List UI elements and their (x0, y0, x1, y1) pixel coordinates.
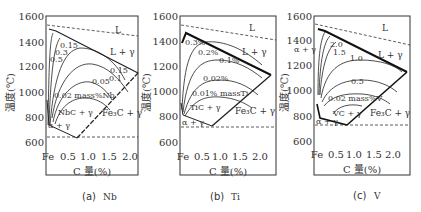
region-L-gamma: L + γ (378, 50, 403, 60)
ytick-1400: 1400 (19, 37, 44, 48)
ytick-1000: 1000 (287, 85, 312, 96)
region-L-gamma: L + γ (242, 47, 267, 57)
caption-c-element: V (373, 191, 381, 201)
ytick-1600: 1600 (287, 11, 312, 22)
ytick-1400: 1400 (153, 36, 178, 47)
iso-0.02: 0.02 mass%Nb (54, 91, 115, 100)
x-axis-label: C 量(%) (209, 166, 247, 177)
iso-0.05: 0.05 (92, 77, 110, 86)
region-alpha-gamma-top: α + γ (294, 45, 316, 54)
xtick-1.5: 1.5 (232, 151, 248, 162)
region-tic-gamma: TiC + γ (190, 103, 221, 112)
caption-c-prefix: (c) (353, 190, 366, 201)
iso-0.3: 0.3% (185, 38, 206, 47)
xtick-2.0: 2.0 (252, 151, 268, 162)
panel-ti: 1600 1400 1200 1000 800 600 温度(℃) Fe 0.5… (140, 11, 276, 177)
ytick-600: 600 (293, 136, 312, 147)
region-fe3c-gamma: Fe₃C + γ (235, 106, 275, 116)
iso-0.01: 0.01% massTi (192, 89, 249, 98)
region-L: L (249, 23, 255, 33)
iso-0.5: 0.5 (351, 77, 364, 86)
ytick-1600: 1600 (153, 11, 178, 22)
xtick-2.0: 2.0 (385, 149, 401, 160)
ytick-1600: 1600 (19, 11, 44, 22)
region-L: L (115, 25, 121, 35)
iso-0.1: 0.1% (219, 56, 240, 65)
y-axis-label: 温度(℃) (140, 73, 152, 112)
xtick-0.5: 0.5 (328, 149, 344, 160)
x-axis-label: C 量(%) (343, 164, 381, 175)
x-axis-label: C 量(%) (73, 166, 111, 177)
ytick-1200: 1200 (19, 61, 44, 72)
iso-0.2: 0.2% (198, 48, 219, 57)
iso-0.02: 0.02 mass%V (328, 94, 383, 103)
region-L-gamma: L + γ (110, 47, 135, 57)
panel-nb: 1600 1400 1200 1000 800 600 温度(℃) Fe 0.5… (4, 11, 142, 177)
caption-b-prefix: (b) (210, 191, 224, 202)
region-alpha-gamma: α + γ (316, 117, 338, 126)
xtick-1.0: 1.0 (80, 151, 96, 162)
ytick-600: 600 (25, 137, 44, 148)
ytick-1200: 1200 (153, 61, 178, 72)
region-alpha-gamma: α + γ (48, 121, 70, 130)
panel-v: 1600 1400 1200 1000 800 600 温度(℃) Fe 0.5… (278, 11, 410, 175)
iso-1.0: 1.0 (350, 54, 363, 63)
region-nbc-gamma: NbC + γ (58, 108, 93, 117)
xtick-0.5: 0.5 (60, 151, 76, 162)
y-axis-label: 温度(℃) (4, 73, 16, 112)
region-alpha-gamma: α + γ (182, 118, 204, 127)
ytick-600: 600 (159, 137, 178, 148)
ytick-800: 800 (159, 111, 178, 122)
ytick-800: 800 (293, 111, 312, 122)
xtick-1.0: 1.0 (212, 151, 228, 162)
xtick-fe: Fe (177, 151, 189, 162)
ytick-1000: 1000 (153, 86, 178, 97)
xtick-1.0: 1.0 (346, 149, 362, 160)
caption-b-element: Ti (231, 192, 240, 202)
ytick-1200: 1200 (287, 60, 312, 71)
ytick-1000: 1000 (19, 87, 44, 98)
iso-1.5: 1.5 (333, 48, 346, 57)
xtick-fe: Fe (311, 149, 323, 160)
xtick-fe: Fe (42, 151, 54, 162)
xtick-1.5: 1.5 (366, 149, 382, 160)
xtick-1.5: 1.5 (101, 151, 117, 162)
caption-a-element: Nb (103, 192, 117, 202)
region-fe3c-gamma: Fe₃C + γ (102, 108, 142, 118)
iso-0.5: 0.5 (50, 55, 63, 64)
iso-0.02: 0.02% (203, 74, 229, 83)
iso-0.1: 0.1 (109, 74, 122, 83)
phase-diagrams-figure: 1600 1400 1200 1000 800 600 温度(℃) Fe 0.5… (0, 0, 421, 212)
y-axis-label: 温度(℃) (278, 73, 290, 112)
ytick-800: 800 (25, 112, 44, 123)
xtick-0.5: 0.5 (194, 151, 210, 162)
region-fe3c-gamma: Fe₃C + γ (370, 108, 410, 118)
xtick-2.0: 2.0 (122, 151, 138, 162)
caption-a-prefix: (a) (82, 191, 96, 202)
region-L: L (382, 23, 388, 33)
